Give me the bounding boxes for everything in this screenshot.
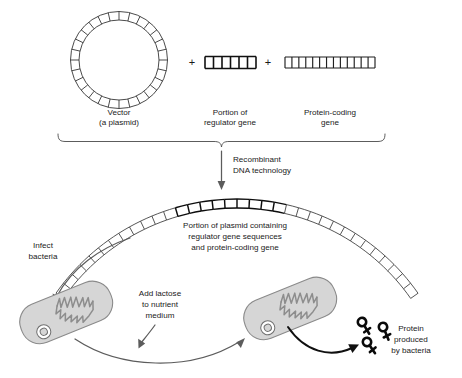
vector-label-line1: Vector (108, 108, 131, 117)
plus-sign-1: + (189, 56, 195, 68)
recombinant-label-line2: DNA technology (233, 166, 292, 175)
arc-rung (212, 200, 213, 209)
plus-sign-2: + (265, 56, 271, 68)
protein-label-line3: by bacteria (391, 346, 431, 355)
lactose-label-line1: Add lactose (139, 289, 182, 298)
biology-diagram-svg: Vector (a plasmid) + Portion of regulato… (0, 0, 462, 378)
arc-rung (261, 200, 262, 209)
arc-rung (249, 199, 250, 208)
infect-label-line1: Infect (33, 241, 54, 250)
arc-caption-line2: regulator gene sequences (188, 232, 282, 241)
protein-coding-gene-label-line1: Protein-coding (304, 108, 356, 117)
arc-caption-line3: and protein-coding gene (191, 243, 279, 252)
lactose-label-line2: to nutrient (142, 300, 179, 309)
arc-caption-line1: Portion of plasmid containing (183, 221, 287, 230)
protein-coding-gene-label-line2: gene (321, 118, 340, 127)
protein-label-line2: produced (394, 335, 428, 344)
vector-label-line2: (a plasmid) (99, 118, 139, 127)
infect-label-line2: bacteria (29, 252, 58, 261)
diagram-root: Vector (a plasmid) + Portion of regulato… (0, 0, 462, 378)
regulator-gene-label-line1: Portion of (213, 108, 248, 117)
lactose-label-line3: medium (146, 311, 175, 320)
arc-rung (225, 199, 226, 208)
recombinant-label-line1: Recombinant (233, 155, 281, 164)
protein-label-line1: Protein (398, 324, 424, 333)
regulator-gene-label-line2: regulator gene (204, 118, 257, 127)
